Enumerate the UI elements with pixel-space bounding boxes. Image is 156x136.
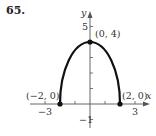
point-right (117, 101, 122, 106)
graph: y x 5 −1 −3 3 (0, 4) (−2, 0) (2, 0) (0, 0, 156, 136)
tick-label-neg3: −3 (38, 106, 52, 117)
point-label-right: (2, 0) (122, 90, 148, 101)
point-top (87, 39, 92, 44)
tick-label-5: 5 (82, 21, 88, 32)
y-axis-label: y (80, 7, 87, 18)
point-label-left: (−2, 0) (26, 90, 60, 101)
x-axis-arrow-icon (143, 102, 150, 107)
tick-label-3: 3 (132, 106, 138, 117)
point-left (57, 101, 62, 106)
tick-label-neg1: −1 (79, 114, 93, 125)
point-label-top: (0, 4) (95, 28, 121, 39)
y-axis-arrow-icon (88, 11, 93, 18)
